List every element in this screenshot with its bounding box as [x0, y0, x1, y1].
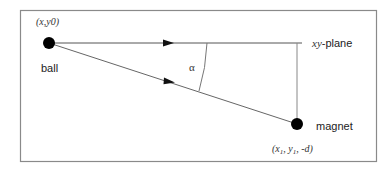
ball-point: [43, 37, 55, 49]
slant-line: [49, 43, 297, 124]
magnet-coords-label: (x1, y1, -d): [272, 143, 314, 156]
diagram-border: [21, 11, 377, 162]
plane-label-italic: xy: [311, 37, 322, 49]
angle-arc: [199, 43, 207, 91]
magnet-coords-suffix: , -d): [296, 143, 313, 155]
ball-label: ball: [41, 62, 58, 74]
magnet-label: magnet: [316, 120, 353, 132]
ball-coords-label: (x,y0): [36, 16, 60, 28]
angle-label: α: [189, 61, 195, 73]
plane-label-suffix: -plane: [322, 37, 353, 49]
plane-label: xy-plane: [311, 37, 352, 49]
horizontal-arrow-icon: [163, 40, 174, 47]
diagram-canvas: (x,y0) ball xy-plane α magnet (x1, y1, -…: [0, 0, 389, 172]
magnet-point: [291, 118, 303, 130]
